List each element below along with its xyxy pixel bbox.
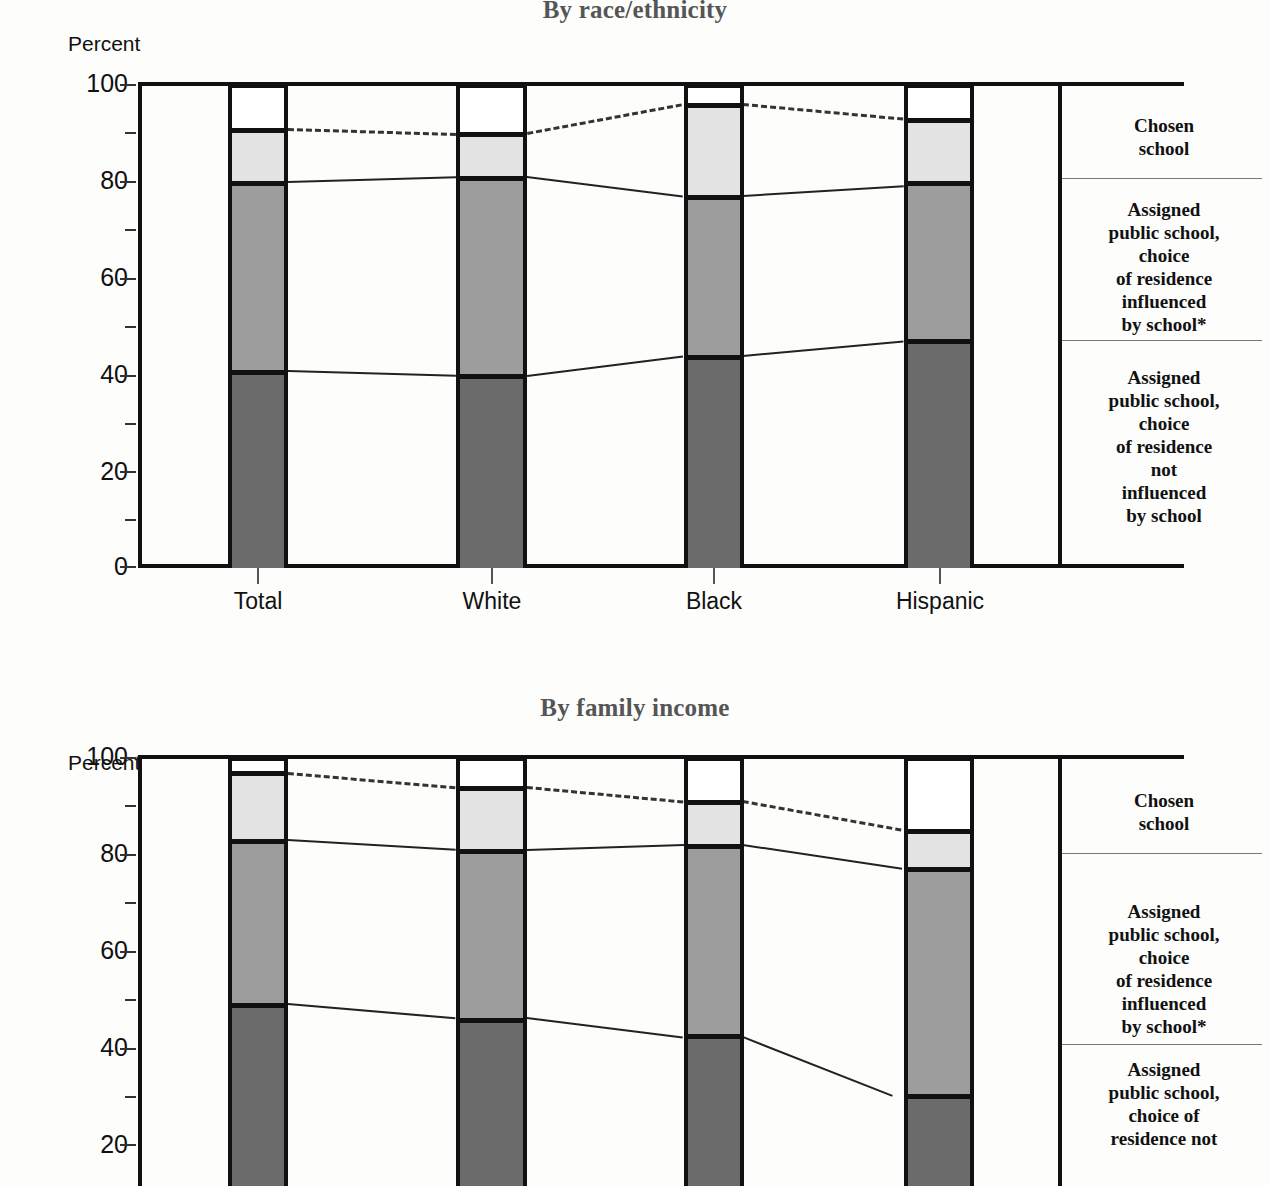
- segment-remainder-income-1: [228, 757, 288, 771]
- bar-income-3[interactable]: [684, 757, 744, 1186]
- y-tick-0: 0: [58, 552, 128, 581]
- segment-remainder-income-3: [684, 757, 744, 800]
- legend-label-not-influenced-race: Assigned public school, choice of reside…: [1062, 366, 1266, 527]
- y-tick-mark-60: [120, 278, 136, 280]
- y-tick-mark-50-2: [125, 999, 136, 1001]
- segment-not-influenced-black: [684, 355, 744, 568]
- segment-influenced-income-1: [228, 839, 288, 1003]
- segment-not-influenced-income-2: [456, 1018, 527, 1186]
- legend-separator-2-race: [1062, 340, 1262, 341]
- segment-chosen-income-3: [684, 800, 744, 844]
- x-axis-label-total: Total: [173, 588, 343, 615]
- legend-separator-2-income: [1062, 1044, 1262, 1045]
- y-tick-mark-30: [125, 423, 136, 425]
- y-tick-mark-100: [120, 84, 136, 86]
- segment-remainder-total: [228, 84, 288, 128]
- plot-bottom-rule: [138, 564, 1184, 568]
- legend-label-chosen-race: Chosen school: [1062, 114, 1266, 160]
- segment-chosen-hispanic: [904, 118, 974, 181]
- legend-item-influenced-income: Assigned public school, choice of reside…: [1062, 855, 1266, 1035]
- x-tick-mark-black: [713, 568, 715, 584]
- x-tick-mark-total: [257, 568, 259, 584]
- y-tick-mark-20: [120, 471, 136, 473]
- legend-item-influenced-race: Assigned public school, choice of reside…: [1062, 180, 1266, 338]
- y-tick-mark-50: [125, 326, 136, 328]
- legend-label-not-influenced-income: Assigned public school, choice of reside…: [1062, 1058, 1266, 1150]
- y-tick-mark-70-2: [125, 902, 136, 904]
- segment-influenced-black: [684, 195, 744, 355]
- segment-remainder-income-2: [456, 757, 527, 786]
- y-tick-mark-40: [120, 375, 136, 377]
- legend-item-not-influenced-income: Assigned public school, choice of reside…: [1062, 1046, 1266, 1186]
- segment-not-influenced-hispanic: [904, 339, 974, 568]
- y-tick-mark-30-2: [125, 1096, 136, 1098]
- x-axis-label-white: White: [407, 588, 577, 615]
- legend-item-chosen-income: Chosen school: [1062, 759, 1266, 849]
- legend-separator-1-income: [1062, 853, 1262, 854]
- legend-item-chosen-race: Chosen school: [1062, 86, 1266, 174]
- bar-total[interactable]: [228, 84, 288, 568]
- y-tick-80: 80: [58, 166, 128, 195]
- segment-chosen-income-4: [904, 829, 974, 867]
- segment-chosen-black: [684, 103, 744, 195]
- segment-remainder-income-4: [904, 757, 974, 829]
- legend-label-chosen-income: Chosen school: [1062, 789, 1266, 835]
- y-tick-mark-40-2: [120, 1048, 136, 1050]
- legend-item-not-influenced-race: Assigned public school, choice of reside…: [1062, 342, 1266, 566]
- bar-income-4[interactable]: [904, 757, 974, 1186]
- y-tick-mark-80-2: [120, 854, 136, 856]
- y-tick-40: 40: [58, 360, 128, 389]
- segment-chosen-income-2: [456, 786, 527, 849]
- x-tick-mark-white: [491, 568, 493, 584]
- segment-not-influenced-total: [228, 370, 288, 568]
- y-tick-100: 100: [58, 69, 128, 98]
- segment-remainder-white: [456, 84, 527, 132]
- y-tick-mark-60-2: [120, 951, 136, 953]
- legend-label-influenced-race: Assigned public school, choice of reside…: [1062, 198, 1266, 336]
- segment-influenced-total: [228, 181, 288, 370]
- chart-title-family-income: By family income: [0, 694, 1270, 722]
- bar-black[interactable]: [684, 84, 744, 568]
- segment-influenced-white: [456, 176, 527, 374]
- segment-not-influenced-income-1: [228, 1003, 288, 1186]
- y-tick-mark-90: [125, 132, 136, 134]
- legend-label-influenced-income: Assigned public school, choice of reside…: [1062, 900, 1266, 1038]
- y-tick-mark-10: [125, 519, 136, 521]
- segment-remainder-black: [684, 84, 744, 103]
- segment-not-influenced-white: [456, 374, 527, 568]
- y-tick-100-2: 100: [58, 742, 128, 771]
- x-axis-label-black: Black: [629, 588, 799, 615]
- chart-panel-race-ethnicity: By race/ethnicity Percent 100 80 60 40 2…: [0, 0, 1270, 640]
- y-tick-mark-100-2: [120, 757, 136, 759]
- bar-income-1[interactable]: [228, 757, 288, 1186]
- plot-top-rule-2: [138, 755, 1184, 759]
- y-tick-80-2: 80: [58, 839, 128, 868]
- chart-title-race-ethnicity: By race/ethnicity: [0, 0, 1270, 24]
- y-tick-60-2: 60: [58, 936, 128, 965]
- segment-influenced-income-2: [456, 849, 527, 1018]
- segment-influenced-income-4: [904, 867, 974, 1094]
- y-tick-20: 20: [58, 457, 128, 486]
- y-tick-mark-20-2: [120, 1144, 136, 1146]
- y-tick-20-2: 20: [58, 1130, 128, 1159]
- chart-panel-family-income: By family income Percent 100 80 60 40 20: [0, 640, 1270, 1186]
- segment-remainder-hispanic: [904, 84, 974, 118]
- legend-separator-1-race: [1062, 178, 1262, 179]
- bar-hispanic[interactable]: [904, 84, 974, 568]
- y-axis-caption-percent: Percent: [68, 32, 140, 56]
- segment-not-influenced-income-3: [684, 1034, 744, 1186]
- bar-white[interactable]: [456, 84, 527, 568]
- segment-influenced-hispanic: [904, 181, 974, 339]
- segment-chosen-white: [456, 132, 527, 176]
- x-tick-mark-hispanic: [939, 568, 941, 584]
- y-tick-40-2: 40: [58, 1033, 128, 1062]
- segment-chosen-income-1: [228, 771, 288, 839]
- segment-influenced-income-3: [684, 844, 744, 1034]
- plot-top-rule: [138, 82, 1184, 86]
- segment-chosen-total: [228, 128, 288, 181]
- y-tick-60: 60: [58, 263, 128, 292]
- y-tick-mark-70: [125, 229, 136, 231]
- x-axis-label-hispanic: Hispanic: [855, 588, 1025, 615]
- bar-income-2[interactable]: [456, 757, 527, 1186]
- segment-not-influenced-income-4: [904, 1094, 974, 1186]
